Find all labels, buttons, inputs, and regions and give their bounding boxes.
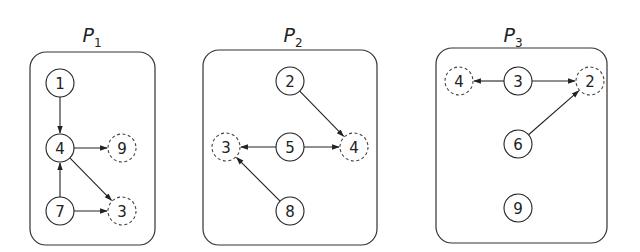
- node-6: 6: [504, 130, 532, 158]
- node-label: 7: [55, 203, 65, 221]
- node-5: 5: [276, 133, 304, 161]
- node-label: 9: [117, 140, 127, 158]
- edge-8-to-3: [237, 158, 280, 201]
- node-label: 3: [117, 203, 127, 221]
- node-label: 4: [349, 139, 359, 157]
- edge-4-to-3: [70, 158, 112, 200]
- node-3-external: 3: [212, 133, 240, 161]
- node-label: 6: [513, 136, 523, 154]
- panel-p3: P343269: [436, 24, 607, 243]
- panel-p1: P114973: [30, 24, 155, 245]
- node-4: 4: [46, 134, 74, 162]
- node-label: 3: [221, 139, 231, 157]
- node-2: 2: [276, 67, 304, 95]
- node-label: 9: [513, 200, 523, 218]
- node-label: 3: [513, 73, 523, 91]
- node-label: 5: [285, 139, 295, 157]
- edge-2-to-4: [300, 91, 344, 136]
- node-1: 1: [46, 69, 74, 97]
- node-4-external: 4: [340, 133, 368, 161]
- node-2-external: 2: [576, 67, 604, 95]
- node-label: 4: [55, 140, 65, 158]
- panel-title: P1: [82, 24, 101, 50]
- node-9: 9: [504, 194, 532, 222]
- node-label: 1: [55, 75, 65, 93]
- node-label: 2: [285, 73, 295, 91]
- node-3-external: 3: [108, 197, 136, 225]
- node-4-external: 4: [445, 67, 473, 95]
- partition-diagram: P114973P223548P343269: [0, 0, 640, 252]
- node-8: 8: [276, 197, 304, 225]
- panel-p2: P223548: [203, 24, 377, 245]
- node-9-external: 9: [108, 134, 136, 162]
- node-3: 3: [504, 67, 532, 95]
- node-label: 4: [454, 73, 464, 91]
- edge-6-to-2: [529, 91, 579, 135]
- panel-title: P2: [283, 24, 302, 50]
- node-label: 8: [285, 203, 295, 221]
- node-label: 2: [585, 73, 595, 91]
- panel-title: P3: [503, 24, 522, 50]
- node-7: 7: [46, 197, 74, 225]
